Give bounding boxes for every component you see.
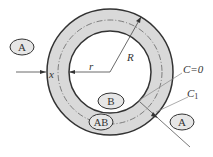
concentration-zero-label: C=0 <box>183 63 204 75</box>
region-A-right-label: A <box>178 116 186 128</box>
region-B-label: B <box>107 95 114 107</box>
x-arrowhead <box>40 70 46 74</box>
concentration-one-subscript: 1 <box>194 92 198 101</box>
x-coordinate-label: x <box>48 68 54 80</box>
diffusion-ring-diagram: A B AB A r R x C=0 C1 <box>0 0 213 157</box>
region-AB-label: AB <box>94 117 109 128</box>
outer-radius-label: R <box>126 51 134 63</box>
concentration-one-label: C1 <box>187 87 198 101</box>
inner-radius-label: r <box>89 60 94 72</box>
region-A-left-label: A <box>18 41 26 53</box>
